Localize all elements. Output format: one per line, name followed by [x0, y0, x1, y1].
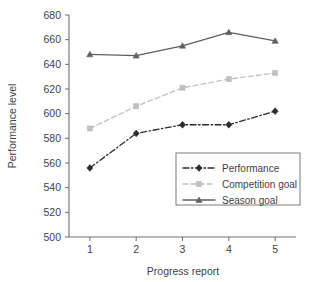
x-axis-title: Progress report — [147, 265, 219, 277]
series-markers — [87, 29, 279, 171]
y-tick-label: 620 — [43, 83, 61, 95]
legend-marker-sample — [196, 181, 201, 186]
line-chart: 500520540560580600620640660680 12345 Per… — [0, 0, 310, 282]
x-tick-label: 5 — [272, 243, 278, 255]
x-tick-label: 1 — [87, 243, 93, 255]
x-tick-label: 4 — [226, 243, 232, 255]
y-tick-label: 600 — [43, 107, 61, 119]
legend-item-label: Competition goal — [222, 179, 297, 190]
legend-item-label: Performance — [222, 163, 280, 174]
y-tick-label: 660 — [43, 33, 61, 45]
data-point-marker — [87, 165, 93, 172]
x-tick-label: 3 — [180, 243, 186, 255]
y-tick-label: 580 — [43, 132, 61, 144]
y-tick-label: 680 — [43, 9, 61, 21]
legend-item-label: Season goal — [222, 195, 278, 206]
data-point-marker — [226, 121, 232, 128]
data-point-marker — [272, 108, 278, 115]
data-point-marker — [87, 126, 92, 131]
y-axis-title: Performance level — [6, 84, 18, 169]
data-point-marker — [226, 29, 232, 35]
y-tick-label: 520 — [43, 206, 61, 218]
data-point-marker — [180, 85, 185, 90]
series-line — [90, 73, 275, 128]
chart-figure: 500520540560580600620640660680 12345 Per… — [0, 0, 310, 282]
data-point-marker — [273, 70, 278, 75]
y-tick-label: 640 — [43, 58, 61, 70]
y-tick-label: 560 — [43, 157, 61, 169]
y-tick-label: 500 — [43, 231, 61, 243]
x-axis-ticks: 12345 — [87, 237, 278, 255]
y-axis-ticks: 500520540560580600620640660680 — [43, 9, 69, 243]
x-tick-label: 2 — [133, 243, 139, 255]
data-point-marker — [180, 121, 186, 128]
chart-legend: PerformanceCompetition goalSeason goal — [176, 153, 300, 206]
data-point-marker — [226, 77, 231, 82]
data-point-marker — [133, 130, 139, 137]
series-lines — [90, 32, 275, 168]
data-point-marker — [134, 104, 139, 109]
y-tick-label: 540 — [43, 181, 61, 193]
